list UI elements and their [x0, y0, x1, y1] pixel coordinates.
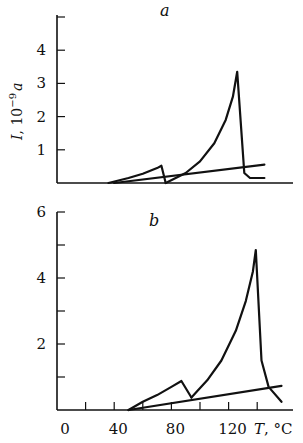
y-ticks-b: 246: [36, 203, 65, 377]
series-b: [129, 250, 282, 410]
x-axis-label: T, °C: [254, 420, 293, 438]
y-tick-label: 4: [36, 41, 46, 59]
y-label-exp: −9: [7, 93, 18, 108]
y-tick-label: 1: [36, 141, 46, 159]
y-label-unit: a: [9, 83, 25, 91]
x-tick-label: 40: [109, 420, 128, 438]
y-tick-label: 2: [36, 335, 46, 353]
x-tick-label: 120: [218, 420, 247, 438]
y-ticks-a: 1234: [36, 17, 65, 159]
y-tick-label: 2: [36, 108, 46, 126]
x-tick-label: 0: [60, 420, 70, 438]
x-ticks-b: 04080120: [60, 402, 257, 438]
panel-label-b: b: [149, 211, 159, 230]
y-tick-label: 6: [36, 203, 46, 221]
y-tick-label: 4: [36, 269, 46, 287]
panel-label-a: a: [160, 1, 170, 20]
panel-a: 1234 a I, 10−9a: [7, 1, 293, 183]
series-line: [114, 165, 264, 183]
panel-b: 246 04080120 b T, °C: [36, 203, 293, 438]
y-tick-label: 3: [36, 74, 46, 92]
x-tick-label: 80: [166, 420, 185, 438]
y-axis-label: I, 10−9a: [7, 83, 25, 141]
series-line: [191, 250, 281, 402]
chart: 1234 a I, 10−9a 246 04080120 b T, °C: [0, 0, 303, 443]
y-label-text: , 10: [9, 108, 25, 135]
series-a: [109, 72, 265, 183]
